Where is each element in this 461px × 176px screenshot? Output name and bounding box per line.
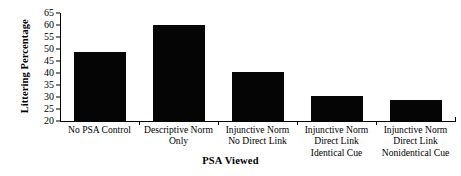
- bar-slot: [297, 13, 376, 121]
- x-axis-tick-label-line: Injunctive Norm: [297, 124, 376, 135]
- y-axis-tick-labels: 20253035404550556065: [34, 13, 54, 121]
- bar: [390, 100, 442, 121]
- x-axis-tick-label-line: Injunctive Norm: [376, 124, 455, 135]
- y-axis-title: Littering Percentage: [18, 10, 32, 122]
- x-axis-tick-label-line: No Direct Link: [218, 135, 297, 146]
- x-axis-tick-mark: [218, 121, 219, 125]
- x-axis-tick-label: Descriptive NormOnly: [139, 124, 218, 147]
- y-axis-title-text: Littering Percentage: [20, 19, 31, 113]
- y-axis-tick-label: 35: [44, 80, 54, 90]
- x-axis-line: [60, 121, 456, 122]
- x-axis-tick-label-line: Injunctive Norm: [218, 124, 297, 135]
- x-axis-tick-label: Injunctive NormDirect LinkIdentical Cue: [297, 124, 376, 158]
- x-axis-tick-label-line: Direct Link: [376, 135, 455, 146]
- bar-slot: [60, 13, 139, 121]
- x-axis-tick-label-line: Direct Link: [297, 135, 376, 146]
- x-axis-tick-label-line: Descriptive Norm: [139, 124, 218, 135]
- bar: [232, 72, 284, 121]
- bar-slot: [218, 13, 297, 121]
- x-axis-tick-mark: [297, 121, 298, 125]
- plot-area: [60, 13, 455, 121]
- y-axis-tick-label: 45: [44, 56, 54, 66]
- bar: [153, 25, 205, 121]
- bar-chart-figure: Littering Percentage 2025303540455055606…: [0, 0, 461, 176]
- bar: [74, 52, 126, 121]
- y-axis-tick-label: 60: [44, 20, 54, 30]
- bar-slot: [139, 13, 218, 121]
- x-axis-tick-mark: [139, 121, 140, 125]
- y-axis-tick-label: 40: [44, 68, 54, 78]
- x-axis-title: PSA Viewed: [0, 155, 461, 166]
- x-axis-tick-label-line: No PSA Control: [60, 124, 139, 135]
- y-axis-tick-label: 25: [44, 104, 54, 114]
- bar-slot: [376, 13, 455, 121]
- x-axis-tick-mark: [376, 121, 377, 125]
- x-axis-tick-label-line: Only: [139, 135, 218, 146]
- bar: [311, 96, 363, 121]
- y-axis-tick-label: 50: [44, 44, 54, 54]
- x-axis-end-tick: [455, 117, 456, 122]
- x-axis-tick-label: Injunctive NormNo Direct Link: [218, 124, 297, 147]
- y-axis-tick-label: 30: [44, 92, 54, 102]
- x-axis-tick-label: Injunctive NormDirect LinkNonidentical C…: [376, 124, 455, 158]
- y-axis-tick-label: 55: [44, 32, 54, 42]
- y-axis-tick-label: 65: [44, 8, 54, 18]
- y-axis-tick-label: 20: [44, 116, 54, 126]
- x-axis-tick-label: No PSA Control: [60, 124, 139, 135]
